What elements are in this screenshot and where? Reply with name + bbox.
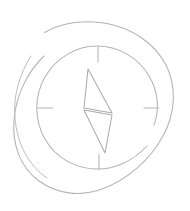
icon-canvas: compass icon: [0, 0, 190, 211]
needle-upper-blade: [84, 69, 112, 113]
inner-ring-circle: [37, 46, 158, 169]
needle-lower-blade: [84, 110, 112, 153]
inner-ring-group: [37, 46, 158, 169]
compass-needle: [84, 69, 112, 153]
compass-icon: compass icon: [0, 0, 190, 211]
outer-ring-arc-secondary: [15, 56, 47, 178]
